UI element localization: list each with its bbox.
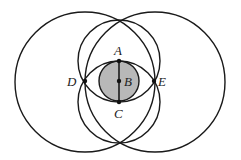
label-b: B (124, 74, 132, 89)
geometry-diagram: A B C D E (0, 0, 241, 160)
label-a: A (113, 43, 122, 58)
label-d: D (66, 74, 77, 89)
point-d (83, 79, 87, 83)
label-e: E (157, 74, 166, 89)
point-c (117, 100, 121, 104)
point-e (152, 79, 156, 83)
point-b (117, 79, 121, 83)
label-c: C (114, 106, 123, 121)
point-a (117, 59, 121, 63)
